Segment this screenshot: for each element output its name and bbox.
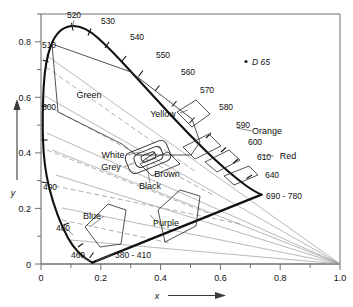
region-label-yellow: Yellow: [150, 109, 176, 119]
x-axis-label: x: [154, 291, 160, 301]
region-label-blue: Blue: [83, 211, 101, 221]
x-tick-label-0p2: 0.2: [95, 273, 108, 283]
y-tick-label-0p8: 0.8: [18, 37, 31, 47]
region-label-green: Green: [76, 90, 101, 100]
cie-chromaticity-chart: 0 0.2 0.4 0.6 0.8 1.0 0 0.2 0.4 0.6 0.8 …: [0, 0, 353, 307]
y-axis-minor-ticks: [37, 14, 41, 236]
wavelength-label-460: 460: [71, 250, 85, 260]
region-label-white: White: [101, 150, 124, 160]
illuminant-d65-marker-group: D 65: [244, 57, 270, 67]
wavelength-leader-lines: [66, 21, 113, 262]
illuminant-d65-dot: [244, 60, 247, 63]
y-axis-label: y: [10, 188, 16, 198]
wavelength-label-520: 520: [67, 10, 81, 20]
x-tick-label-0p6: 0.6: [214, 273, 227, 283]
wavelength-label-480: 480: [56, 223, 70, 233]
wavelength-label-570: 570: [200, 85, 214, 95]
y-axis-major-ticks: [35, 42, 41, 264]
region-label-brown: Brown: [154, 169, 180, 179]
illuminant-d65-label: D 65: [252, 57, 270, 67]
wavelength-label-490: 490: [43, 182, 57, 192]
wavelength-label-580: 580: [219, 102, 233, 112]
chromaticity-diagram-figure: 0 0.2 0.4 0.6 0.8 1.0 0 0.2 0.4 0.6 0.8 …: [0, 0, 353, 307]
x-axis-minor-ticks: [71, 264, 310, 268]
x-axis-label-group: x: [154, 291, 226, 301]
wavelength-label-560: 560: [181, 67, 195, 77]
x-tick-label-0: 0: [38, 273, 43, 283]
wavelength-label-690-780: 690 - 780: [266, 191, 302, 201]
wavelength-label-530: 530: [101, 16, 115, 26]
x-tick-label-0p8: 0.8: [274, 273, 287, 283]
wavelength-label-600: 600: [248, 137, 262, 147]
region-red-chip: [224, 166, 258, 185]
region-label-red: Red: [280, 151, 297, 161]
region-green: [52, 44, 200, 155]
region-label-purple: Purple: [153, 218, 179, 228]
x-tick-label-1p0: 1.0: [334, 273, 347, 283]
wavelength-label-540: 540: [130, 32, 144, 42]
y-tick-label-0p6: 0.6: [18, 93, 31, 103]
y-tick-label-0p4: 0.4: [18, 148, 31, 158]
region-orange-chip: [205, 150, 240, 172]
wavelength-ticks: [42, 23, 253, 258]
region-label-grey: Grey: [101, 162, 121, 172]
wavelength-label-380-410: 380 - 410: [115, 250, 151, 260]
wavelength-label-550: 550: [156, 50, 170, 60]
wavelength-label-500: 500: [42, 102, 56, 112]
wavelength-label-640: 640: [265, 170, 279, 180]
wavelength-label-610: 610: [257, 152, 271, 162]
y-tick-label-0p2: 0.2: [18, 204, 31, 214]
region-label-orange: Orange: [252, 126, 282, 136]
x-tick-label-0p4: 0.4: [154, 273, 167, 283]
y-tick-label-0: 0: [26, 260, 31, 270]
